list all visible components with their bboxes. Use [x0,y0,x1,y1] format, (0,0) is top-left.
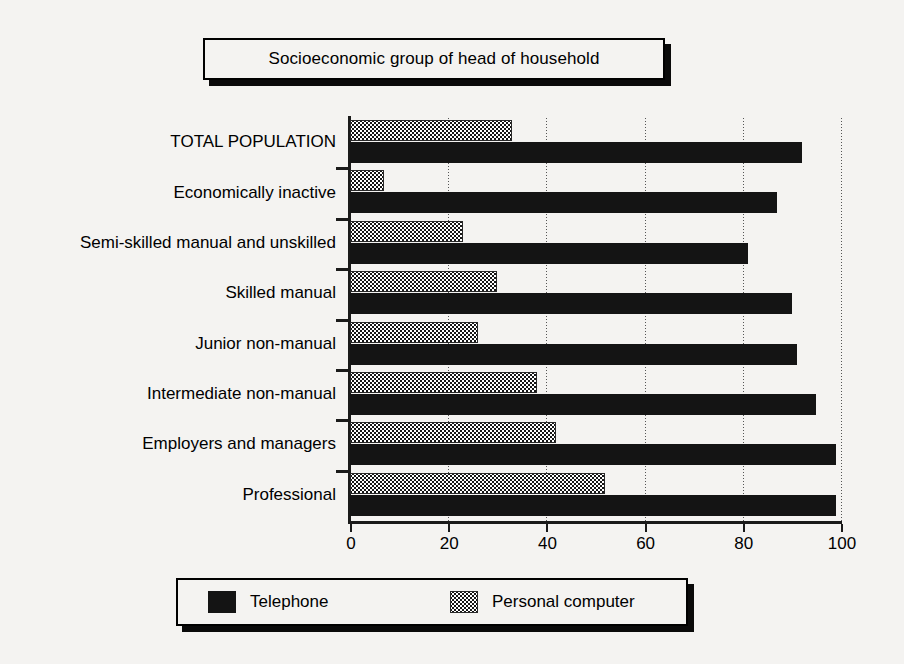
legend-item[interactable]: Telephone [208,591,328,613]
category-label: TOTAL POPULATION [0,132,336,152]
x-tick-20 [448,524,450,532]
bar-personal-computer [350,473,605,494]
legend-box: TelephonePersonal computer [176,578,688,626]
y-axis-tick [336,319,350,322]
y-axis-tick [336,470,350,473]
category-label: Intermediate non-manual [0,384,336,404]
bar-personal-computer [350,372,537,393]
x-tick-label-60: 60 [636,534,655,554]
y-axis-tick [336,167,350,170]
plot-area [350,118,841,521]
x-tick-40 [546,524,548,532]
x-tick-80 [743,524,745,532]
category-label: Professional [0,485,336,505]
category-label: Economically inactive [0,183,336,203]
legend-label: Telephone [250,592,328,612]
legend-label: Personal computer [492,592,635,612]
legend-container: TelephonePersonal computer [176,578,688,628]
bar-personal-computer [350,221,463,242]
bar-personal-computer [350,271,497,292]
solid-black-swatch [208,591,236,613]
x-tick-label-80: 80 [734,534,753,554]
bar-personal-computer [350,422,556,443]
bar-personal-computer [350,120,512,141]
category-label: Employers and managers [0,434,336,454]
bar-telephone [350,192,777,213]
y-axis-tick [336,268,350,271]
y-axis-tick [336,369,350,372]
bar-telephone [350,243,748,264]
x-tick-100 [841,524,843,532]
legend-item[interactable]: Personal computer [450,591,635,613]
y-axis-tick [336,218,350,221]
bar-telephone [350,495,836,516]
category-label: Junior non-manual [0,334,336,354]
x-tick-60 [645,524,647,532]
x-tick-label-0: 0 [346,534,355,554]
bar-telephone [350,394,816,415]
x-tick-0 [350,524,352,532]
bar-telephone [350,293,792,314]
bar-personal-computer [350,322,478,343]
x-tick-label-20: 20 [440,534,459,554]
bar-telephone [350,444,836,465]
x-tick-label-40: 40 [538,534,557,554]
bar-telephone [350,344,797,365]
gridline-100 [841,118,842,521]
category-label: Semi-skilled manual and unskilled [0,233,336,253]
category-label: Skilled manual [0,283,336,303]
x-axis-line [348,521,842,524]
bar-telephone [350,142,802,163]
bar-chart: 020406080100 TOTAL POPULATIONEconomicall… [0,0,904,664]
bar-personal-computer [350,170,384,191]
y-axis-tick [336,419,350,422]
checkered-gray-swatch [450,591,478,613]
x-tick-label-100: 100 [828,534,856,554]
